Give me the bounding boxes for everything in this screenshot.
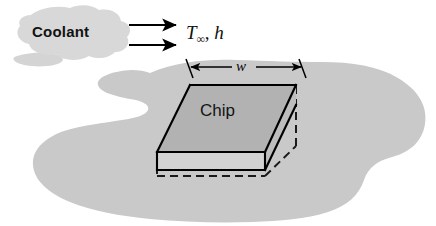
label-separator: , xyxy=(205,22,215,43)
temperature-symbol: T xyxy=(186,22,197,43)
coolant-label: Coolant xyxy=(32,23,89,40)
flow-conditions-label: T∞, h xyxy=(186,22,224,47)
chip-convection-cooling-schematic: Coolant T∞, h w Chip xyxy=(0,0,436,226)
chip-label: Chip xyxy=(200,101,235,121)
infinity-subscript: ∞ xyxy=(197,32,205,46)
width-dimension-label: w xyxy=(236,58,246,75)
convection-coefficient-symbol: h xyxy=(214,22,224,43)
coolant-flow-arrows xyxy=(129,25,176,45)
chip-front-face xyxy=(157,152,265,170)
